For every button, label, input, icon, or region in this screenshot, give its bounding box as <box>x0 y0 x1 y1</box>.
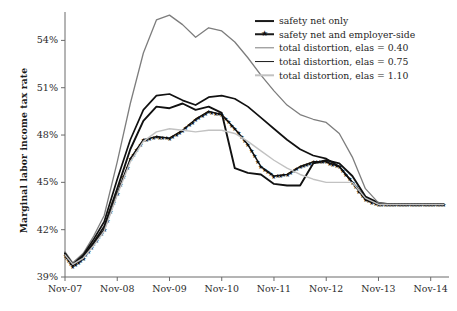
legend-swatch-icon <box>255 14 274 28</box>
legend-swatch-icon <box>255 68 274 82</box>
legend-swatch-icon <box>255 41 274 55</box>
series-marker: ★ <box>255 158 260 166</box>
chart-figure: Marginal labor income tax rate ★★★★★★★★★… <box>0 0 457 311</box>
x-tick-label: Nov-12 <box>296 283 356 294</box>
series-marker: ★ <box>320 158 325 166</box>
legend-item[interactable]: safety net and employer-side <box>255 28 455 42</box>
legend-item[interactable]: total distortion, elas = 0.40 <box>255 41 455 55</box>
y-tick-label: 42% <box>24 224 58 235</box>
legend-item-label: total distortion, elas = 0.75 <box>279 56 408 67</box>
series-line <box>65 129 444 265</box>
series-marker: ★ <box>229 122 234 130</box>
legend-item-label: total distortion, elas = 0.40 <box>279 42 408 53</box>
legend-item[interactable]: safety net only <box>255 14 455 28</box>
legend-item[interactable]: total distortion, elas = 0.75 <box>255 55 455 69</box>
y-tick-label: 54% <box>24 34 58 45</box>
series-marker: ★ <box>268 170 273 178</box>
series-marker: ★ <box>281 171 286 179</box>
series-marker: ★ <box>216 110 221 118</box>
x-tick-label: Nov-11 <box>244 283 304 294</box>
legend-swatch-icon <box>255 55 274 69</box>
x-tick-label: Nov-13 <box>348 283 408 294</box>
legend: safety net onlysafety net and employer-s… <box>255 14 455 82</box>
x-tick-label: Nov-07 <box>35 283 95 294</box>
x-tick-label: Nov-08 <box>87 283 147 294</box>
y-tick-label: 48% <box>24 129 58 140</box>
series-marker: ★ <box>138 141 143 149</box>
x-tick-label: Nov-09 <box>139 283 199 294</box>
x-tick-label: Nov-14 <box>401 283 457 294</box>
series-marker: ★ <box>164 134 169 142</box>
legend-item-label: safety net only <box>279 15 348 26</box>
legend-item[interactable]: total distortion, elas = 1.10 <box>255 68 455 82</box>
x-tick-label: Nov-10 <box>192 283 252 294</box>
y-tick-label: 51% <box>24 82 58 93</box>
y-tick-label: 45% <box>24 176 58 187</box>
series-marker: ★ <box>203 110 208 118</box>
legend-swatch-icon <box>255 28 274 42</box>
series-marker: ★ <box>190 119 195 127</box>
legend-item-label: total distortion, elas = 1.10 <box>279 70 408 81</box>
y-tick-label: 39% <box>24 271 58 282</box>
series-marker: ★ <box>307 160 312 168</box>
legend-item-label: safety net and employer-side <box>279 29 415 40</box>
